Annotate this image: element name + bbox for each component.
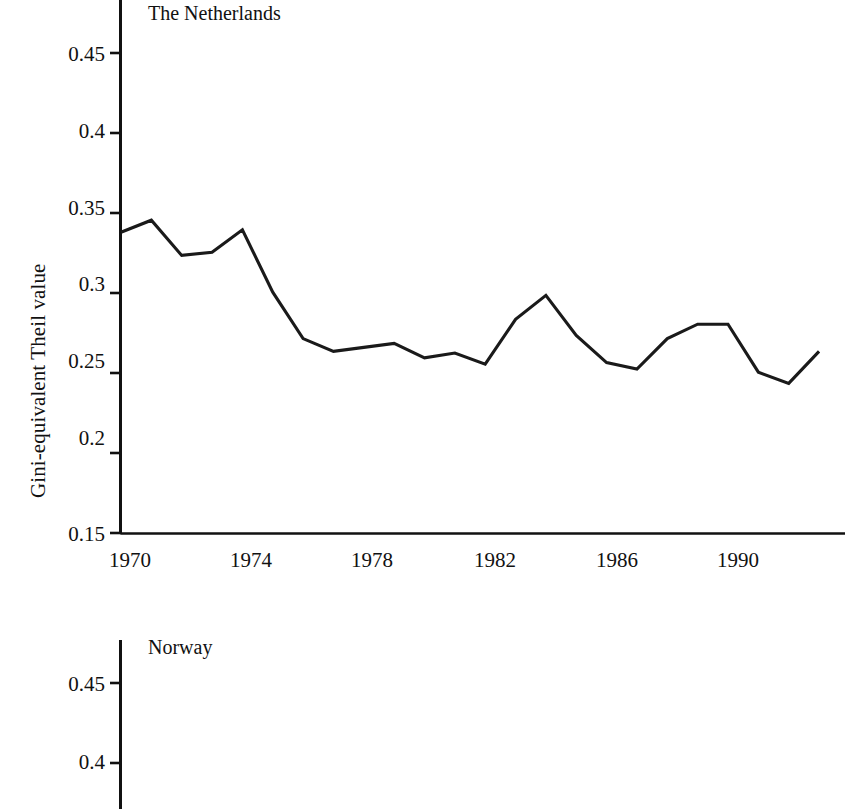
plot-area-netherlands xyxy=(0,0,845,580)
figure-container: The Netherlands Gini-equivalent Theil va… xyxy=(0,0,845,809)
chart-panel-netherlands: The Netherlands Gini-equivalent Theil va… xyxy=(0,0,845,580)
chart-panel-norway: Norway ue 0.45 0.4 xyxy=(0,600,845,809)
data-line-netherlands xyxy=(121,220,819,383)
plot-area-norway xyxy=(0,600,845,809)
